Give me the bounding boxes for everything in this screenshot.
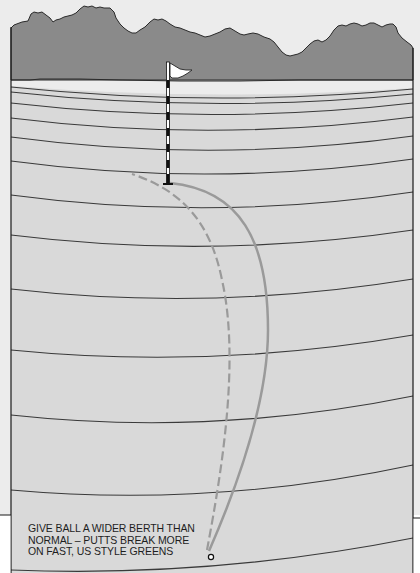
outside-lower-right <box>414 518 420 573</box>
putting-green <box>11 80 413 573</box>
caption-line-1: GIVE BALL A WIDER BERTH THAN <box>28 523 195 535</box>
outside-lower-left <box>0 515 10 573</box>
caption: GIVE BALL A WIDER BERTH THAN NORMAL – PU… <box>28 523 195 558</box>
golf-ball <box>208 554 213 559</box>
tree-line-silhouette <box>11 6 413 80</box>
golf-green-illustration <box>0 0 420 573</box>
caption-line-3: ON FAST, US STYLE GREENS <box>28 546 195 558</box>
